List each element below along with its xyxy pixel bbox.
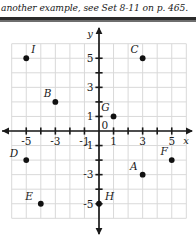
point-marker	[169, 157, 175, 163]
point-label: A	[129, 160, 138, 172]
y-axis-arrow-up	[96, 27, 103, 34]
page-caption: another example, see Set 8-11 on p. 465.	[0, 0, 196, 16]
point-label: F	[159, 145, 168, 157]
point-label: H	[104, 190, 115, 202]
point-marker	[140, 55, 146, 61]
x-tick-label: -5	[21, 135, 31, 147]
x-axis-label: x	[183, 135, 189, 146]
y-axis-label: y	[86, 28, 93, 39]
point-label: E	[24, 190, 33, 202]
scatter-plot-svg: -5-3-1135531-1-3-50 xy ICBGDFAEH	[0, 24, 196, 240]
point-marker	[23, 157, 29, 163]
x-tick-label: 1	[110, 135, 117, 147]
point-label: D	[9, 147, 19, 159]
header-rule-shadow	[0, 20, 196, 22]
point-label: C	[131, 43, 139, 55]
point-label: B	[43, 87, 52, 99]
x-axis-arrow-left	[2, 128, 9, 135]
y-axis-arrow-down	[96, 228, 103, 235]
coordinate-plane-figure: -5-3-1135531-1-3-50 xy ICBGDFAEH	[0, 24, 196, 240]
x-tick-label: 5	[168, 135, 175, 147]
point-marker	[38, 201, 44, 207]
y-tick-label: 5	[87, 52, 94, 64]
point-marker	[140, 172, 146, 178]
point-label: G	[101, 101, 109, 113]
x-tick-label: -3	[50, 135, 60, 147]
x-tick-label: 3	[139, 135, 146, 147]
y-tick-label: -5	[83, 198, 93, 210]
point-marker	[111, 114, 117, 120]
y-tick-label: 1	[87, 110, 94, 122]
y-tick-label: -3	[83, 168, 93, 180]
point-label: I	[30, 43, 36, 55]
origin-label: 0	[102, 119, 109, 131]
y-tick-label: -1	[83, 139, 93, 151]
data-points: ICBGDFAEH	[9, 43, 175, 206]
point-marker	[52, 99, 58, 105]
y-tick-label: 3	[87, 81, 94, 93]
x-axis-arrow-right	[186, 128, 193, 135]
point-marker	[23, 55, 29, 61]
point-marker	[96, 201, 102, 207]
